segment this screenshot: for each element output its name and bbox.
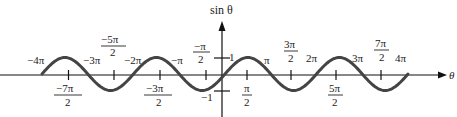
x-label-2pi: 2π [306,52,318,64]
x-label-neg7pi2-num: −7π [56,82,74,94]
x-label-3pi: 3π [352,52,364,64]
x-label-neg3pi2-num: −3π [146,82,164,94]
x-label-negpi2-den: 2 [198,53,204,65]
x-label-5pi2-den: 2 [332,96,338,108]
sine-chart: θ sin θ 1 −1 −4π −3π −5π 2 −2π −π −π 2 π… [0,0,457,117]
x-axis-arrow-icon [438,72,447,79]
x-label-neg5pi2-num: −5π [101,33,119,45]
x-label-neg3pi2-den: 2 [156,96,162,108]
y-axis-label: sin θ [210,3,233,17]
x-label-3pi2-num: 3π [284,38,296,50]
x-label-5pi2-num: 5π [329,82,341,94]
x-label-neg2pi: −2π [124,54,142,66]
x-label-4pi: 4π [395,52,407,64]
x-label-7pi2-num: 7π [375,37,387,49]
x-label-negpi2-num: −π [194,40,206,52]
x-axis-label: θ [449,69,455,81]
y-tick-label-pos1: 1 [229,51,235,63]
y-axis-arrow-icon [219,21,226,31]
x-label-pi2-den: 2 [244,96,250,108]
x-label-pi: π [264,54,270,66]
x-label-neg3pi: −3π [83,54,101,66]
y-tick-label-neg1: −1 [201,91,213,103]
x-label-pi2-num: π [244,82,250,94]
x-label-3pi2-den: 2 [288,52,294,64]
x-label-neg4pi: −4π [27,54,45,66]
x-label-neg7pi2-den: 2 [65,96,71,108]
x-label-neg5pi2-den: 2 [110,46,116,58]
x-label-negpi: −π [171,54,183,66]
x-label-7pi2-den: 2 [379,51,385,63]
